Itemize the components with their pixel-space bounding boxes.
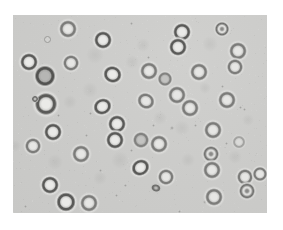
red-blood-cell: [213, 20, 232, 39]
micrograph-photo: [13, 15, 267, 213]
red-blood-cell: [203, 186, 225, 208]
photo-canvas: [0, 0, 283, 230]
red-blood-cell: [231, 134, 247, 150]
red-blood-cell: [132, 87, 161, 115]
red-blood-cell: [179, 97, 201, 119]
red-blood-cell: [70, 143, 92, 165]
red-blood-cell: [92, 29, 114, 51]
red-blood-cell: [32, 63, 58, 89]
blood-cells-layer: [13, 15, 267, 213]
red-blood-cell: [42, 121, 64, 143]
red-blood-cell: [98, 61, 127, 89]
red-blood-cell: [57, 18, 79, 40]
red-blood-cell: [202, 119, 224, 141]
red-blood-cell: [23, 136, 43, 156]
red-blood-cell: [167, 36, 189, 58]
red-blood-cell: [104, 129, 126, 151]
red-blood-cell: [188, 61, 210, 83]
red-blood-cell: [237, 181, 257, 201]
red-blood-cell: [251, 165, 267, 184]
red-blood-cell: [148, 133, 170, 155]
red-blood-cell: [201, 159, 223, 181]
red-blood-cell: [216, 89, 238, 111]
red-blood-cell: [61, 53, 81, 73]
red-blood-cell: [126, 153, 156, 182]
red-blood-cell: [54, 190, 77, 213]
red-blood-cell: [78, 192, 100, 213]
red-blood-cell: [225, 57, 245, 77]
